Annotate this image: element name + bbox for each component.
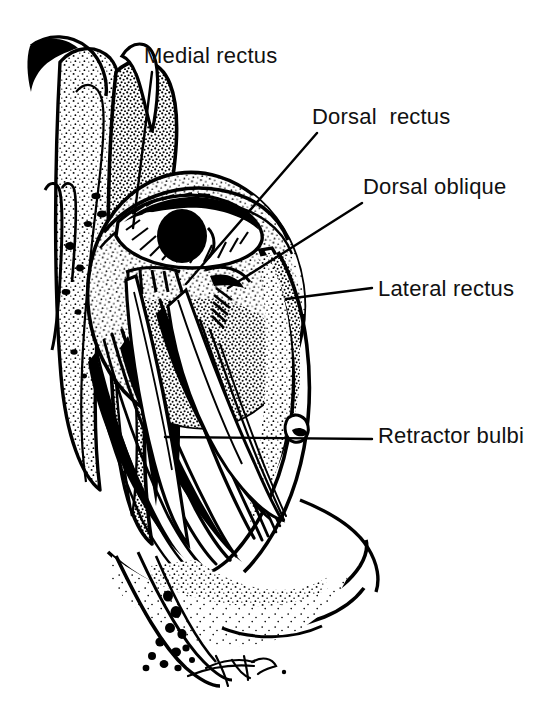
figure-drawing-canvas — [0, 0, 547, 712]
label-lateral-rectus: Lateral rectus — [378, 277, 514, 301]
label-medial-rectus: Medial rectus — [144, 44, 277, 68]
label-dorsal-rectus: Dorsal rectus — [312, 105, 451, 129]
label-retractor-bulbi: Retractor bulbi — [378, 424, 524, 448]
pupil — [157, 209, 207, 263]
anatomical-figure: Medial rectus Dorsal rectus Dorsal obliq… — [0, 0, 547, 712]
label-dorsal-oblique: Dorsal oblique — [363, 175, 506, 199]
